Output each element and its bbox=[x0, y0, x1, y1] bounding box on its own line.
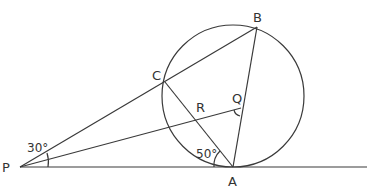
label-Q: Q bbox=[232, 91, 242, 106]
label-A: A bbox=[228, 174, 237, 189]
label-P: P bbox=[2, 160, 10, 175]
geometry-diagram: P A B C Q R 30° 50° bbox=[0, 0, 378, 192]
angle-label-P: 30° bbox=[27, 141, 48, 155]
label-R: R bbox=[196, 100, 205, 115]
angle-arc-Q bbox=[234, 110, 240, 116]
angle-label-A: 50° bbox=[196, 147, 217, 161]
label-B: B bbox=[253, 10, 262, 25]
label-C: C bbox=[152, 68, 161, 83]
secant-line-PCB bbox=[20, 27, 257, 167]
